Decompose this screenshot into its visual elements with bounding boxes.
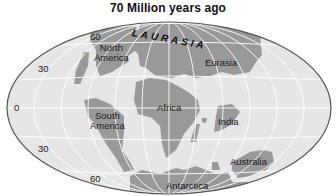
lat-label-60n: 60	[90, 31, 101, 42]
world-map	[0, 0, 336, 196]
label-antarctica: Antarctica	[166, 181, 208, 191]
lat-label-30s: 30	[38, 143, 49, 154]
label-australia: Australia	[230, 157, 267, 167]
lat-label-60s: 60	[90, 173, 101, 184]
label-north-america-line2: America	[94, 53, 129, 63]
label-south-america: South America	[90, 111, 125, 131]
lat-label-equator: 0	[14, 102, 19, 113]
label-north-america: North America	[94, 43, 129, 63]
label-africa: Africa	[157, 103, 181, 113]
label-india: India	[218, 117, 239, 127]
label-south-america-line2: America	[90, 121, 125, 131]
lat-label-30n: 30	[38, 63, 49, 74]
label-eurasia: Eurasia	[205, 58, 237, 68]
